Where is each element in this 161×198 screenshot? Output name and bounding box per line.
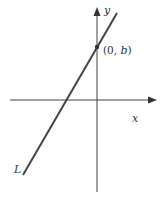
y-intercept-point: [95, 45, 99, 49]
y-axis-arrow-icon: [94, 7, 101, 16]
point-label: (0, b): [103, 44, 132, 57]
line-L: [23, 13, 117, 175]
line-label: L: [13, 163, 21, 176]
x-axis-label: x: [132, 112, 139, 125]
x-axis-arrow-icon: [148, 97, 157, 104]
y-axis-label: y: [103, 4, 111, 17]
diagram-canvas: y x L (0, b): [0, 0, 161, 198]
